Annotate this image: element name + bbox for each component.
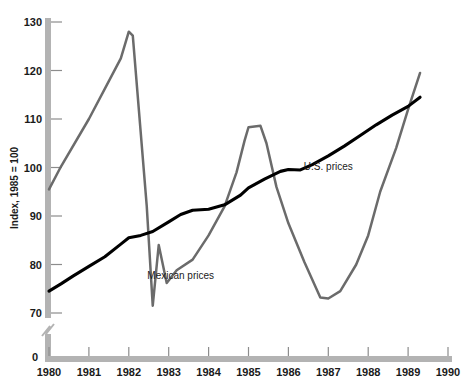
chart-canvas: 708090100110120130 198019811982198319841… (0, 0, 474, 390)
x-tick-label: 1987 (316, 366, 340, 378)
x-tick-label: 1989 (396, 366, 420, 378)
price-index-line-chart: 708090100110120130 198019811982198319841… (0, 0, 474, 390)
x-tick-label: 1982 (117, 366, 141, 378)
y-tick-label: 130 (24, 16, 42, 28)
series-line-mexican-prices (49, 32, 420, 306)
x-tick-group: 1980198119821983198419851986198719881989… (37, 347, 460, 378)
x-tick-label: 1985 (236, 366, 260, 378)
series-label-us-prices: U.S. prices (304, 161, 353, 172)
x-tick-label: 1983 (156, 366, 180, 378)
y-tick-group: 708090100110120130 (24, 16, 62, 319)
x-tick-label: 1984 (196, 366, 221, 378)
series-line-us-prices (49, 97, 420, 291)
y-tick-label: 100 (24, 162, 42, 174)
x-tick-label: 1980 (37, 366, 61, 378)
x-tick-label: 1986 (276, 366, 300, 378)
origin-zero-label: 0 (32, 351, 38, 363)
x-tick-label: 1988 (356, 366, 380, 378)
y-tick-label: 80 (30, 259, 42, 271)
y-tick-label: 70 (30, 307, 42, 319)
series-label-mexican-prices: Mexican prices (147, 270, 214, 281)
y-tick-label: 110 (24, 113, 42, 125)
y-axis-title: Index, 1985 = 100 (9, 147, 20, 229)
x-tick-label: 1990 (436, 366, 460, 378)
x-axis (45, 356, 452, 362)
x-tick-label: 1981 (77, 366, 101, 378)
y-tick-label: 120 (24, 65, 42, 77)
y-tick-label: 90 (30, 210, 42, 222)
